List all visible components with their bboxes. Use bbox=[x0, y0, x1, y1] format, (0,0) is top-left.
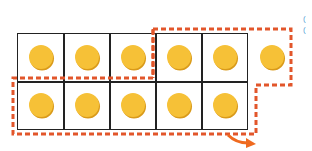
grouping-outlines bbox=[0, 0, 312, 151]
top-right-group-outline bbox=[13, 29, 291, 134]
ten-frame-diagram: ( ( bbox=[0, 0, 312, 151]
edge-mark: ( bbox=[303, 25, 306, 34]
edge-mark: ( bbox=[303, 14, 306, 23]
arrow-icon bbox=[228, 135, 248, 143]
arrow-head-icon bbox=[246, 138, 256, 148]
